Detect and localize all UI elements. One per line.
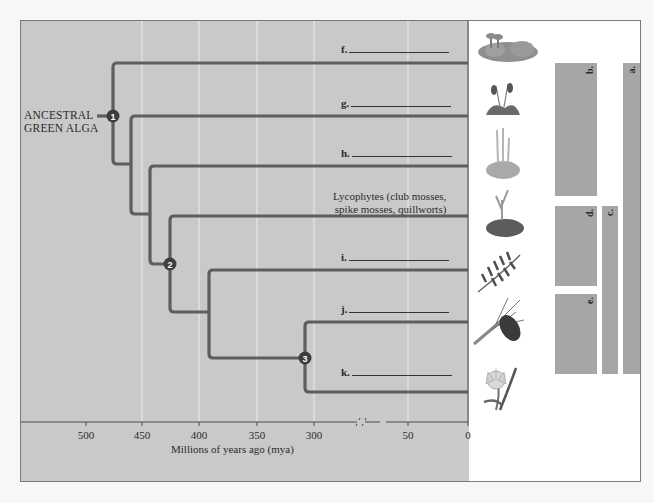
node-3: 3 — [299, 352, 312, 365]
branch-label-i: i. — [341, 251, 449, 263]
flower-icon — [484, 368, 516, 410]
lycophytes-label: Lycophytes (club mosses, spike mosses, q… — [333, 190, 446, 216]
bracket-bar-a — [623, 63, 640, 374]
tick-350: 350 — [249, 429, 266, 441]
branch-label-h: h. — [341, 147, 452, 159]
hornwort-icon — [486, 128, 520, 179]
tick-50: 50 — [403, 429, 414, 441]
answer-blank-h[interactable] — [352, 155, 452, 157]
tick-0: 0 — [465, 429, 471, 441]
root-label: ANCESTRAL GREEN ALGA — [24, 109, 99, 135]
liverwort-icon — [478, 33, 538, 62]
root-label-line-1: ANCESTRAL — [24, 109, 99, 122]
bracket-bar-e — [555, 294, 597, 374]
tick-300: 300 — [306, 429, 323, 441]
tick-400: 400 — [191, 429, 208, 441]
x-axis-title: Millions of years ago (mya) — [171, 443, 294, 455]
answer-blank-g[interactable] — [351, 105, 451, 107]
lycophytes-label-line-2: spike mosses, quillworts) — [333, 203, 446, 216]
svg-text:3: 3 — [302, 354, 307, 364]
answer-blank-k[interactable] — [352, 374, 452, 376]
tick-500: 500 — [78, 429, 95, 441]
bracket-bar-b — [555, 63, 597, 196]
answer-blank-j[interactable] — [349, 311, 449, 313]
branch-label-f: f. — [341, 43, 449, 55]
answer-blank-i[interactable] — [349, 259, 449, 261]
bracket-label-b: b. — [584, 66, 595, 74]
bracket-bar-d — [555, 206, 597, 286]
root-label-line-2: GREEN ALGA — [24, 122, 99, 135]
bracket-label-e: e. — [584, 297, 595, 304]
svg-text:2: 2 — [167, 260, 172, 270]
bracket-label-d: d. — [584, 209, 595, 217]
branch-label-k: k. — [341, 366, 452, 378]
node-1: 1 — [107, 110, 120, 123]
branch-label-g: g. — [341, 97, 451, 109]
pine-cone-icon — [474, 298, 525, 345]
fern-icon — [478, 252, 520, 292]
tick-450: 450 — [134, 429, 151, 441]
moss-icon — [486, 83, 520, 115]
lycophytes-label-line-1: Lycophytes (club mosses, — [333, 190, 446, 203]
bracket-bar-c — [602, 206, 618, 374]
gridlines — [142, 21, 408, 422]
bracket-label-c: c. — [604, 209, 615, 216]
tree-branches — [97, 63, 468, 392]
svg-text:1: 1 — [110, 112, 115, 122]
bracket-label-a: a. — [626, 66, 637, 74]
lycophyte-icon — [486, 190, 524, 237]
branch-label-j: j. — [341, 303, 449, 315]
node-2: 2 — [164, 258, 177, 271]
answer-blank-f[interactable] — [349, 51, 449, 53]
